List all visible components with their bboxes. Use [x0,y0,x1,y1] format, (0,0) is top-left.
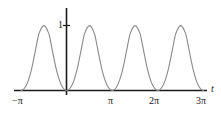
rectified-sine-curve [21,26,203,91]
y-tick-label-one: 1 [58,20,63,30]
x-tick-label-neg-pi: −π [12,96,23,106]
x-tick-label-3pi: 3π [196,96,206,106]
x-tick-label-pi: π [108,96,113,106]
x-tick-label-2pi: 2π [149,96,159,106]
x-axis-label-t: t [211,84,214,94]
rectified-sine-plot: −π π 2π 3π 1 t [0,0,221,116]
